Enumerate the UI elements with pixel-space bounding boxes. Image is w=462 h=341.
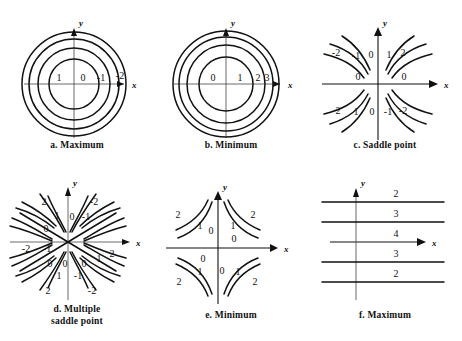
panel-a-label-0: 0: [81, 72, 86, 83]
panel-e-x-axis-label: x: [283, 244, 289, 254]
panel-c-label-bottom-5: -2: [399, 105, 407, 116]
panel-d-label-12: 1: [97, 253, 102, 264]
panel-e-label-7: 0: [201, 253, 206, 264]
panel-e-label-5: 1: [231, 220, 236, 231]
panel-e-label-4: 2: [251, 209, 256, 220]
panel-d-label-3: 1: [55, 210, 60, 221]
panel-d-label-2: -2: [90, 196, 98, 207]
panel-b-caption: b. Minimum: [154, 140, 308, 152]
contour-plot-figure: 1 0 -1 -2 x y a. Maximum: [0, 0, 462, 341]
panel-c-label-bottom-2: 1: [354, 106, 359, 117]
panel-b-label-2: 2: [256, 72, 261, 83]
panel-d-label-11: 0: [82, 258, 87, 269]
panel-f-label-5: 2: [394, 268, 399, 279]
panel-d-label-1: 2: [42, 196, 47, 207]
panel-e-label-6: 0: [232, 233, 237, 244]
panel-e-label-2: 1: [198, 220, 203, 231]
panel-e-label-12: 2: [253, 276, 258, 287]
panel-f-y-axis-label: y: [360, 178, 366, 188]
panel-c-label-top-1: -2: [332, 47, 340, 58]
panel-d-caption-line1: d. Multiple: [53, 304, 100, 314]
panel-c-label-top-2: -1: [352, 50, 360, 61]
panel-e-y-axis-label: y: [222, 182, 228, 192]
panel-e-label-10: 0: [220, 265, 225, 276]
panel-c-caption: c. Saddle point: [308, 140, 462, 152]
panel-d-label-9: 0: [48, 258, 53, 269]
panel-f-x-axis-label: x: [431, 238, 437, 248]
panel-d-caption: d. Multiple saddle point: [0, 304, 154, 327]
panel-f-caption: f. Maximum: [308, 310, 462, 322]
panel-d-label-17: -2: [88, 285, 96, 296]
panel-d-label-16: 2: [46, 285, 51, 296]
panel-d-label-8: -1: [43, 243, 51, 254]
panel-e-caption: e. Minimum: [154, 310, 308, 322]
panel-a-plot: 1 0 -1 -2 x y: [0, 2, 154, 142]
panel-f-maximum: 2 3 4 3 2 x y f. Maximum: [308, 172, 462, 341]
panel-b-x-axis-label: x: [287, 80, 293, 90]
panel-c-label-axis-right: 0: [402, 71, 407, 82]
panel-f-label-3: 4: [394, 228, 399, 239]
panel-e-plot: 2 1 0 2 1 0 0 1 2 0 1 2 x y: [154, 172, 308, 312]
panel-b-y-axis-label: y: [230, 18, 236, 28]
panel-d-y-axis-label: y: [72, 178, 78, 188]
panel-c-label-top-4: 1: [387, 49, 392, 60]
panel-f-axes: [330, 188, 426, 300]
panel-d-label-4: 0: [70, 211, 75, 222]
panel-d-label-13: 2: [110, 248, 115, 259]
panel-d-label-15: -1: [74, 270, 82, 281]
panel-e-label-9: 2: [177, 276, 182, 287]
panel-f-label-2: 3: [394, 208, 399, 219]
panel-b-label-0: 0: [211, 72, 216, 83]
panel-a-label-neg2: -2: [116, 70, 124, 81]
panel-a-caption: a. Maximum: [0, 140, 154, 152]
panel-c-axes: [322, 27, 438, 140]
panel-a-label-1: 1: [57, 72, 62, 83]
panel-f-label-1: 2: [394, 188, 399, 199]
panel-e-label-8: 1: [198, 266, 203, 277]
panel-e-label-1: 2: [176, 209, 181, 220]
panel-d-label-6: 0: [44, 223, 49, 234]
panel-c-label-top-5: 2: [401, 47, 406, 58]
panel-b-plot: 0 1 2 3 x y: [154, 2, 308, 142]
panel-c-label-axis-left: 0: [356, 71, 361, 82]
panel-a-x-axis-label: x: [131, 80, 137, 90]
panel-d-plot: 2 -2 1 0 -1 0 -2 -1 0 0 0 1 2 1 -1 2 -2 …: [0, 172, 154, 312]
panel-c-x-axis-label: x: [443, 80, 449, 90]
panel-c-label-top-3: 0: [369, 49, 374, 60]
panel-f-plot: 2 3 4 3 2 x y: [308, 172, 462, 312]
panel-d-multiple-saddle-point: 2 -2 1 0 -1 0 -2 -1 0 0 0 1 2 1 -1 2 -2 …: [0, 172, 154, 341]
panel-f-label-4: 3: [394, 248, 399, 259]
panel-c-label-bottom-1: 2: [336, 105, 341, 116]
panel-c-y-axis-label: y: [382, 18, 388, 28]
panel-c-label-bottom-4: -1: [384, 106, 392, 117]
panel-c-plot: -2 -1 0 1 2 0 0 2 1 0 -1 -2 x y: [308, 2, 462, 142]
panel-b-minimum: 0 1 2 3 x y b. Minimum: [154, 2, 308, 172]
panel-d-label-10: 0: [63, 258, 68, 269]
panel-a-y-axis-label: y: [78, 18, 84, 28]
panel-e-label-11: 1: [236, 266, 241, 277]
panel-d-x-axis-label: x: [135, 238, 141, 248]
panel-d-label-7: -2: [22, 243, 30, 254]
panel-c-label-bottom-3: 0: [370, 106, 375, 117]
panel-d-label-5: -1: [82, 211, 90, 222]
panel-b-label-1: 1: [238, 72, 243, 83]
panel-b-label-3: 3: [265, 72, 270, 83]
panel-a-label-neg1: -1: [97, 72, 105, 83]
panel-d-caption-line2: saddle point: [0, 316, 154, 328]
panel-e-axes: [166, 191, 278, 304]
panel-d-label-14: 1: [57, 270, 62, 281]
panel-c-saddle-point: -2 -1 0 1 2 0 0 2 1 0 -1 -2 x y c. Saddl…: [308, 2, 462, 172]
panel-e-label-3: 0: [209, 225, 214, 236]
panel-e-minimum: 2 1 0 2 1 0 0 1 2 0 1 2 x y e. Minimum: [154, 172, 308, 341]
panel-a-maximum: 1 0 -1 -2 x y a. Maximum: [0, 2, 154, 172]
